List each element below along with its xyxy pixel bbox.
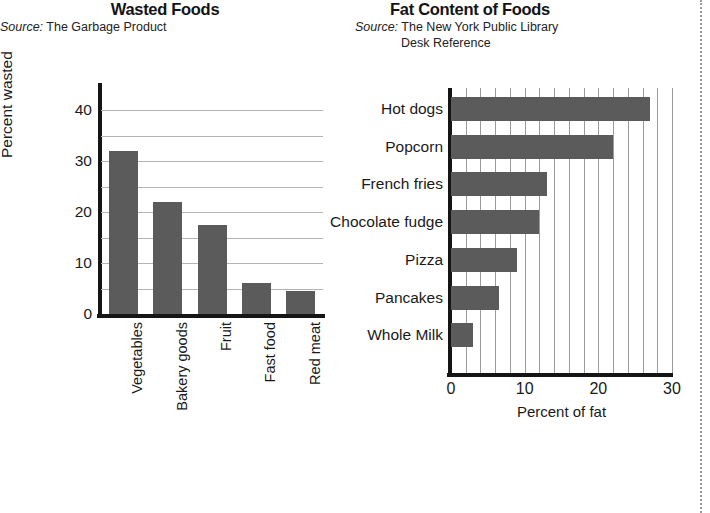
- gridline: [643, 88, 644, 373]
- fat-content-chart: Fat Content of Foods Hot dogsPopcornFren…: [355, 0, 710, 513]
- bar: [109, 151, 138, 314]
- right-source-note: Source: The New York Public Library Desk…: [355, 19, 710, 51]
- gridline: [584, 88, 585, 373]
- y-tick-label: 20: [75, 203, 92, 221]
- category-label: Popcorn: [385, 138, 443, 156]
- bar: [451, 172, 547, 196]
- category-label: French fries: [361, 175, 443, 193]
- x-tick-label: 0: [447, 380, 456, 398]
- right-chart-title: Fat Content of Foods: [355, 0, 585, 19]
- gridline: [598, 88, 599, 373]
- category-label: Fruit: [218, 322, 234, 351]
- gridline: [657, 88, 658, 373]
- left-chart-title: Wasted Foods: [0, 0, 330, 19]
- right-x-axis-label: Percent of fat: [451, 403, 672, 420]
- right-source-text-line1: The New York Public Library: [401, 20, 558, 34]
- gridline: [628, 88, 629, 373]
- category-label: Vegetables: [129, 322, 145, 394]
- gridline: [101, 136, 323, 137]
- bar: [451, 248, 517, 272]
- left-y-axis-line: [98, 83, 102, 314]
- category-label: Hot dogs: [381, 100, 443, 118]
- category-label: Fast food: [262, 322, 278, 382]
- x-tick-label: 10: [516, 380, 534, 398]
- category-label: Chocolate fudge: [330, 213, 443, 231]
- y-tick-label: 0: [83, 305, 92, 323]
- category-label: Bakery goods: [174, 322, 190, 411]
- page-edge-dotted-rule: [700, 0, 702, 513]
- bar: [153, 202, 182, 314]
- figure-page: Wasted Foods 010203040 VegetablesBakery …: [0, 0, 710, 513]
- category-label: Pancakes: [375, 289, 443, 307]
- x-tick-label: 30: [663, 380, 681, 398]
- left-x-axis-line: [97, 314, 325, 318]
- left-source-note: Source: The Garbage Product: [0, 19, 355, 35]
- gridline: [672, 88, 673, 373]
- y-tick-label: 10: [75, 254, 92, 272]
- category-label: Red meat: [307, 322, 323, 385]
- bar: [286, 291, 315, 314]
- bar: [451, 286, 499, 310]
- right-plot-area: Hot dogsPopcornFrench friesChocolate fud…: [451, 88, 672, 373]
- gridline: [554, 88, 555, 373]
- bar: [451, 97, 650, 121]
- right-source-text-line2: Desk Reference: [355, 35, 710, 51]
- bar: [451, 210, 539, 234]
- right-source-prefix: Source:: [355, 20, 398, 34]
- gridline: [613, 88, 614, 373]
- gridline: [569, 88, 570, 373]
- category-label: Pizza: [405, 251, 443, 269]
- y-tick-label: 30: [75, 152, 92, 170]
- bar: [451, 323, 473, 347]
- right-x-axis-line: [447, 373, 673, 377]
- y-tick-label: 40: [75, 101, 92, 119]
- left-source-text: The Garbage Product: [46, 20, 166, 34]
- gridline: [101, 110, 323, 111]
- bar: [198, 225, 227, 314]
- left-plot-area: 010203040 VegetablesBakery goodsFruitFas…: [101, 90, 323, 314]
- wasted-foods-chart: Wasted Foods 010203040 VegetablesBakery …: [0, 0, 355, 513]
- left-source-prefix: Source:: [0, 20, 43, 34]
- bar: [242, 283, 271, 314]
- left-y-axis-label: Percent wasted: [0, 51, 16, 158]
- gridline: [539, 88, 540, 373]
- x-tick-label: 20: [589, 380, 607, 398]
- category-label: Whole Milk: [367, 326, 443, 344]
- bar: [451, 135, 613, 159]
